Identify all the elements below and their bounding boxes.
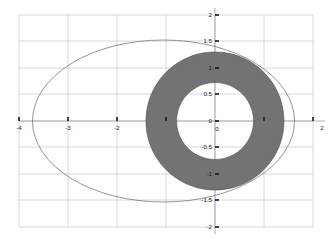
ytick-label-2: 2	[209, 11, 213, 18]
ytick-label-neg2: -2	[206, 223, 212, 230]
ytick-label-neg0p5: -0.5	[201, 143, 212, 150]
xtick-label-neg4: -4	[16, 124, 22, 131]
plot-figure: 2 1.5 1 0.5 0 -0.5 -1 -1.5 -2 -4 -3 -2 0…	[0, 0, 334, 240]
ytick-label-1: 1	[209, 64, 213, 71]
xtick-label-neg3: -3	[65, 124, 71, 131]
plot-canvas: 2 1.5 1 0.5 0 -0.5 -1 -1.5 -2 -4 -3 -2 0…	[0, 0, 334, 240]
ytick-label-neg1p5: -1.5	[201, 196, 212, 203]
ytick-label-0: 0	[209, 117, 213, 124]
xtick-label-2: 2	[320, 124, 324, 131]
xtick-label-neg2: -2	[114, 124, 120, 131]
xtick-label-0: 0	[215, 125, 219, 132]
ytick-label-1p5: 1.5	[203, 37, 212, 44]
ytick-label-neg1: -1	[206, 170, 212, 177]
ytick-label-0p5: 0.5	[203, 90, 212, 97]
